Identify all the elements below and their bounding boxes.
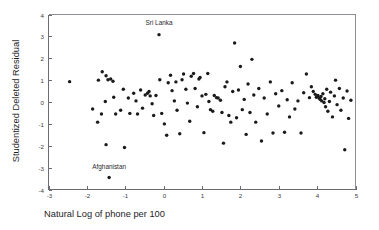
data-point — [331, 115, 334, 118]
data-point — [104, 100, 107, 103]
y-tick-label: 1 — [41, 77, 45, 84]
data-point — [206, 72, 209, 75]
data-point — [250, 58, 253, 61]
data-point — [154, 94, 157, 97]
x-tick-label: -1 — [123, 192, 129, 199]
data-point — [188, 120, 191, 123]
data-point — [227, 114, 230, 117]
data-point — [200, 94, 203, 97]
data-point — [104, 143, 107, 146]
data-point — [338, 87, 341, 90]
data-point — [319, 95, 322, 98]
data-point — [97, 78, 100, 81]
y-tick-label: 4 — [41, 12, 45, 19]
y-tick-label: 0 — [41, 99, 45, 106]
data-point — [178, 132, 181, 135]
data-point — [305, 72, 308, 75]
data-point — [174, 80, 177, 83]
data-point — [248, 111, 251, 114]
data-point — [269, 80, 272, 83]
data-point — [342, 96, 345, 99]
data-point — [123, 146, 126, 149]
data-point — [299, 131, 302, 134]
data-point — [158, 78, 161, 81]
data-point — [157, 33, 160, 36]
y-tick-label: -3 — [38, 165, 44, 172]
data-point — [127, 96, 130, 99]
data-point — [160, 112, 163, 115]
data-point — [96, 120, 99, 123]
data-point — [283, 130, 286, 133]
data-point — [204, 93, 207, 96]
data-point — [308, 96, 311, 99]
data-point — [252, 93, 255, 96]
data-point — [173, 99, 176, 102]
data-point — [184, 88, 187, 91]
data-point — [122, 88, 125, 91]
data-point — [312, 90, 315, 93]
x-tick-label: 5 — [355, 192, 359, 199]
data-point — [104, 74, 107, 77]
annotation-label: Sri Lanka — [146, 19, 173, 26]
data-point — [198, 76, 201, 79]
data-point — [139, 88, 142, 91]
data-point — [310, 85, 313, 88]
data-point — [241, 108, 244, 111]
data-point — [190, 74, 193, 77]
data-points — [68, 33, 353, 179]
data-point — [112, 95, 115, 98]
data-point — [262, 96, 265, 99]
data-point — [254, 120, 257, 123]
data-point — [302, 91, 305, 94]
data-point — [107, 176, 110, 179]
data-point — [170, 89, 173, 92]
y-axis-ticks: -4-3-2-101234 — [38, 12, 52, 194]
data-point — [334, 78, 337, 81]
point-annotations: Sri LankaAfghanistan — [92, 19, 173, 171]
x-tick-label: -3 — [47, 192, 53, 199]
data-point — [136, 112, 139, 115]
data-point — [163, 122, 166, 125]
data-point — [322, 101, 325, 104]
data-point — [280, 89, 283, 92]
data-point — [111, 80, 114, 83]
data-point — [193, 87, 196, 90]
data-point — [152, 114, 155, 117]
data-point — [229, 120, 232, 123]
y-tick-label: 3 — [41, 33, 45, 40]
data-point — [235, 116, 238, 119]
data-point — [345, 89, 348, 92]
data-point — [244, 133, 247, 136]
x-tick-label: -2 — [85, 192, 91, 199]
data-point — [293, 107, 296, 110]
data-point — [175, 109, 178, 112]
data-point — [237, 88, 240, 91]
plot-canvas: -3-2-1012345 -4-3-2-101234 Sri LankaAfgh… — [0, 0, 379, 230]
data-point — [101, 70, 104, 73]
y-axis-title: Studentized Deleted Residual — [11, 40, 21, 163]
data-point — [219, 99, 222, 102]
y-tick-label: -1 — [38, 121, 44, 128]
x-axis-ticks: -3-2-1012345 — [47, 186, 359, 199]
data-point — [335, 103, 338, 106]
data-point — [202, 131, 205, 134]
data-point — [347, 117, 350, 120]
data-point — [150, 102, 153, 105]
data-point — [274, 92, 277, 95]
data-point — [165, 134, 168, 137]
data-point — [243, 98, 246, 101]
data-point — [333, 94, 336, 97]
data-point — [180, 78, 183, 81]
data-point — [277, 104, 280, 107]
data-point — [325, 88, 328, 91]
data-point — [328, 100, 331, 103]
data-point — [285, 98, 288, 101]
x-axis-title: Natural Log of phone per 100 — [44, 209, 165, 219]
data-point — [128, 112, 131, 115]
data-point — [169, 74, 172, 77]
data-point — [141, 106, 144, 109]
data-point — [239, 65, 242, 68]
data-point — [134, 99, 137, 102]
data-point — [271, 131, 274, 134]
data-point — [192, 72, 195, 75]
